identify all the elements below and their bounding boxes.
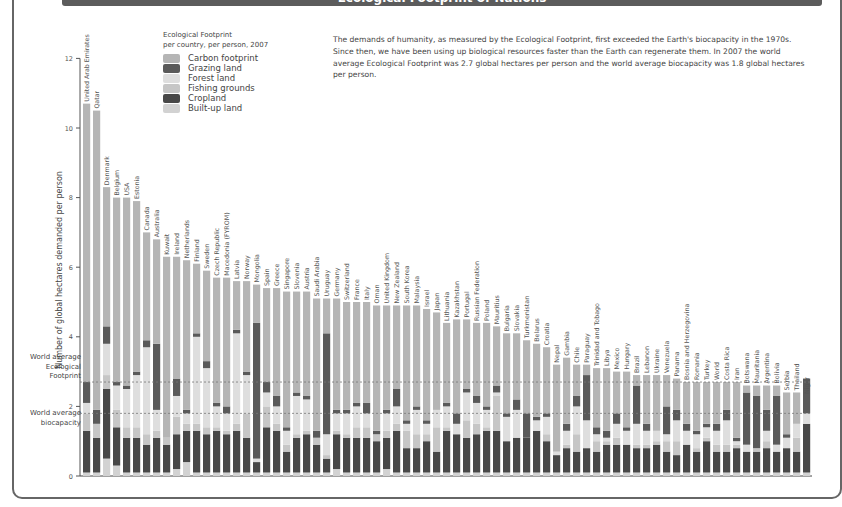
bar-segment-grazing — [413, 406, 420, 409]
bar-segment-builtup — [243, 473, 250, 476]
bar-segment-cropland — [83, 431, 90, 473]
bar-23 — [313, 299, 320, 476]
bar-segment-cropland — [273, 431, 280, 473]
bar-segment-fishing — [723, 445, 730, 452]
bar-segment-carbon — [583, 365, 590, 375]
bar-segment-grazing — [613, 413, 620, 423]
bar-70 — [783, 392, 790, 476]
bar-11 — [193, 264, 200, 476]
bar-segment-forest — [453, 424, 460, 434]
bar-segment-cropland — [223, 434, 230, 472]
bar-segment-fishing — [273, 424, 280, 431]
world-biocapacity-label: biocapacity — [41, 419, 81, 427]
bar-segment-forest — [203, 368, 210, 427]
bar-segment-carbon — [143, 232, 150, 340]
category-label: Mexico — [613, 347, 620, 369]
bar-segment-carbon — [543, 347, 550, 413]
bar-segment-carbon — [133, 201, 140, 372]
bar-segment-grazing — [443, 403, 450, 406]
y-axis-label: Number of global hectares demanded per p… — [55, 171, 64, 369]
category-label: USA — [123, 182, 130, 196]
bar-segment-carbon — [503, 333, 510, 413]
bar-segment-builtup — [753, 473, 760, 476]
bar-segment-grazing — [453, 413, 460, 423]
bar-segment-fishing — [673, 441, 680, 455]
bar-segment-cropland — [333, 434, 340, 469]
bar-segment-forest — [213, 406, 220, 427]
bar-9 — [173, 257, 180, 476]
bar-segment-cropland — [143, 445, 150, 473]
bar-segment-builtup — [573, 473, 580, 476]
category-label: Kazakhstan — [453, 281, 460, 317]
bar-segment-cropland — [363, 438, 370, 473]
bar-segment-builtup — [733, 473, 740, 476]
category-label: Portugal — [463, 291, 471, 317]
bar-segment-carbon — [353, 302, 360, 403]
bar-segment-carbon — [323, 299, 330, 334]
bar-segment-builtup — [593, 473, 600, 476]
bar-segment-carbon — [373, 305, 380, 430]
bar-segment-carbon — [733, 382, 740, 438]
bar-segment-carbon — [213, 278, 220, 403]
bar-segment-cropland — [633, 448, 640, 472]
bar-segment-grazing — [293, 392, 300, 395]
bar-segment-fishing — [193, 424, 200, 431]
category-label: Lebanon — [643, 346, 650, 373]
category-label: Argentina — [763, 353, 771, 384]
bar-56 — [643, 375, 650, 476]
bar-segment-fishing — [343, 434, 350, 437]
bar-segment-cropland — [473, 434, 480, 472]
bar-segment-carbon — [203, 271, 210, 361]
category-label: Mauritius — [493, 295, 500, 324]
bar-segment-forest — [553, 452, 560, 455]
bar-segment-builtup — [283, 473, 290, 476]
bar-20 — [283, 292, 290, 476]
bar-segment-forest — [83, 403, 90, 413]
bar-segment-forest — [713, 431, 720, 445]
bar-segment-cropland — [283, 452, 290, 473]
bar-12 — [203, 271, 210, 476]
bar-segment-fishing — [353, 427, 360, 437]
bar-segment-forest — [333, 413, 340, 430]
bar-segment-cropland — [723, 452, 730, 473]
bar-segment-forest — [563, 431, 570, 445]
bar-segment-cropland — [93, 438, 100, 473]
bar-segment-forest — [603, 438, 610, 441]
bar-segment-cropland — [313, 445, 320, 473]
bar-segment-builtup — [723, 473, 730, 476]
bar-24 — [323, 299, 330, 476]
bar-segment-fishing — [183, 424, 190, 431]
bar-segment-cropland — [683, 445, 690, 473]
bar-segment-forest — [723, 420, 730, 444]
bar-segment-builtup — [153, 473, 160, 476]
bar-segment-grazing — [213, 403, 220, 406]
bar-segment-grazing — [353, 403, 360, 406]
bar-segment-builtup — [563, 473, 570, 476]
bar-segment-forest — [663, 434, 670, 441]
bar-51 — [593, 368, 600, 476]
bar-segment-builtup — [643, 473, 650, 476]
category-label: Austria — [303, 267, 310, 289]
bar-segment-forest — [573, 406, 580, 434]
bar-segment-grazing — [233, 330, 240, 333]
bar-segment-fishing — [633, 445, 640, 448]
category-label: United Arab Emirates — [83, 34, 90, 101]
bar-segment-carbon — [723, 382, 730, 410]
bar-segment-carbon — [793, 392, 800, 423]
bar-37 — [453, 319, 460, 476]
bar-segment-cropland — [563, 448, 570, 472]
bar-segment-forest — [463, 392, 470, 420]
bar-35 — [433, 312, 440, 476]
bar-segment-grazing — [283, 427, 290, 430]
category-label: Iran — [733, 368, 740, 380]
bar-segment-cropland — [593, 452, 600, 473]
bar-segment-fishing — [643, 445, 650, 448]
bar-segment-forest — [103, 344, 110, 375]
bar-segment-grazing — [573, 396, 580, 406]
bar-segment-grazing — [203, 361, 210, 368]
bar-segment-carbon — [433, 312, 440, 409]
category-label: Estonia — [133, 176, 140, 199]
bar-segment-cropland — [323, 459, 330, 473]
y-tick-label: 6 — [69, 264, 73, 272]
bar-segment-fishing — [483, 427, 490, 430]
